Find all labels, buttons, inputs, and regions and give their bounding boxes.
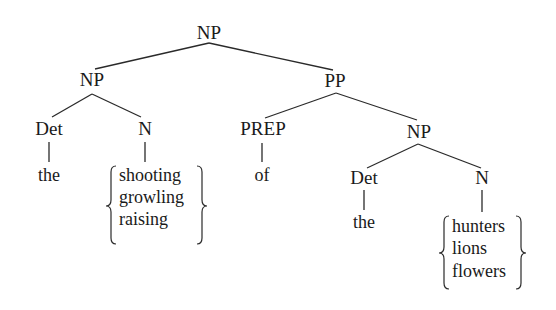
edge-root-npleft <box>95 43 209 69</box>
node-np-left: NP <box>80 70 104 89</box>
alternative-word: raising <box>119 210 168 228</box>
edge-pp-npright <box>336 93 417 120</box>
right-brace-icon <box>197 166 207 244</box>
node-root-np: NP <box>197 23 221 42</box>
edge-npright-det <box>367 144 418 168</box>
node-n-left: N <box>138 119 152 138</box>
alternative-word: growling <box>119 188 184 206</box>
word-the-right: the <box>353 213 375 231</box>
syntax-tree-diagram: NP NP Det N PP PREP NP Det N the of the … <box>0 0 556 310</box>
left-brace-icon <box>106 166 116 244</box>
edge-npleft-det <box>52 94 92 117</box>
alternative-word: lions <box>452 239 487 257</box>
edge-root-pp <box>209 43 333 70</box>
node-pp: PP <box>324 71 345 90</box>
right-brace-icon <box>516 216 526 289</box>
edge-npright-n <box>418 144 481 168</box>
node-n-right: N <box>475 168 489 187</box>
alternative-word: hunters <box>452 217 505 235</box>
edge-pp-prep <box>265 93 336 118</box>
alternative-word: shooting <box>119 166 181 184</box>
word-of: of <box>255 166 270 184</box>
node-prep: PREP <box>240 119 285 138</box>
left-brace-icon <box>439 216 449 289</box>
node-det-left: Det <box>35 119 62 138</box>
alternative-word: flowers <box>452 262 506 280</box>
node-np-right: NP <box>407 122 431 141</box>
edge-npleft-n <box>92 94 141 117</box>
word-the-left: the <box>38 166 60 184</box>
node-det-right: Det <box>350 168 377 187</box>
